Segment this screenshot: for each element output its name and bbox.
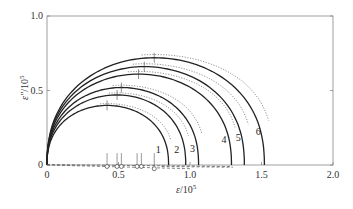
cole-cole-plot: 00.51.01.52.000.51.0 123456 ε/105 ε''/10… <box>0 0 353 209</box>
curve-label-3: 3 <box>190 143 195 154</box>
y-tick-label: 1.0 <box>31 10 44 21</box>
baseline-marker <box>119 164 123 168</box>
x-tick-label: 1.0 <box>184 169 197 180</box>
x-tick-label: 0 <box>45 169 50 180</box>
curve-5 <box>47 67 244 165</box>
curve-label-2: 2 <box>174 144 179 155</box>
baseline-marker <box>135 164 139 168</box>
baseline-marker <box>139 164 143 168</box>
y-axis-label: ε''/105 <box>18 75 30 100</box>
fit-curve-5 <box>133 64 249 125</box>
baseline-marker <box>115 164 119 168</box>
curve-label-1: 1 <box>156 144 161 155</box>
x-tick-label: 0.5 <box>112 169 125 180</box>
x-tick-label: 1.5 <box>255 169 268 180</box>
curve-label-5: 5 <box>236 132 241 143</box>
curve-labels: 123456 <box>156 126 261 155</box>
fit-curve-2 <box>109 93 189 136</box>
x-axis-label: ε/105 <box>176 183 197 195</box>
curve-label-6: 6 <box>256 126 261 137</box>
y-tick-label: 0.5 <box>31 85 44 96</box>
baseline-marker <box>152 167 156 171</box>
baseline-marker <box>105 164 109 168</box>
curve-label-4: 4 <box>221 134 226 145</box>
x-tick-label: 2.0 <box>327 169 340 180</box>
baseline-markers <box>47 153 233 171</box>
fit-curve-3 <box>113 85 202 133</box>
y-tick-label: 0 <box>38 159 43 170</box>
